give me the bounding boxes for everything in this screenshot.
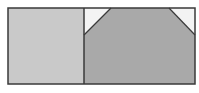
quilt-block-diagram bbox=[0, 0, 199, 93]
left-panel bbox=[8, 8, 84, 84]
right-panel bbox=[84, 8, 195, 84]
diagram-canvas bbox=[0, 0, 199, 93]
